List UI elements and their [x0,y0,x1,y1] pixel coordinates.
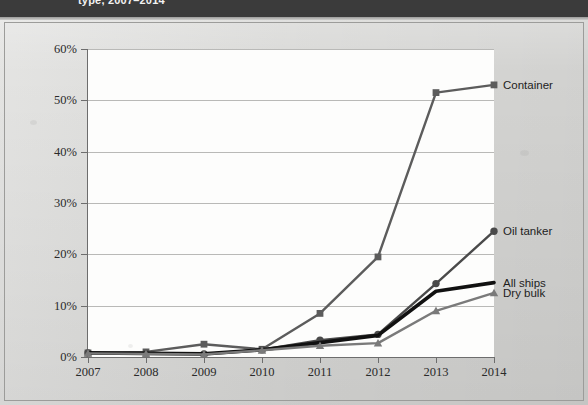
x-axis-tick [378,357,379,363]
y-axis-tick [81,152,88,153]
series-lines [88,49,494,357]
document-header-band: type, 2007–2014 [0,0,588,17]
series-line [88,283,494,354]
x-axis-label: 2013 [424,365,449,380]
plot-area: 0%10%20%30%40%50%60% 2007200820092010201… [87,49,494,358]
x-axis-tick [204,357,205,363]
x-axis-label: 2014 [482,365,507,380]
y-axis-label: 60% [54,42,77,57]
series-label-dry-bulk: Dry bulk [503,287,545,299]
y-axis-label: 30% [54,196,77,211]
series-label-container: Container [503,79,553,91]
data-point-marker [375,254,382,261]
data-point-marker [490,289,498,297]
data-point-marker [317,310,324,317]
y-axis-tick [81,100,88,101]
x-axis-tick [494,357,495,363]
data-point-marker [201,341,208,348]
y-axis-tick [81,357,88,358]
x-axis-label: 2012 [366,365,391,380]
y-axis-label: 0% [60,350,77,365]
x-axis-label: 2010 [250,365,275,380]
y-axis-label: 40% [54,144,77,159]
x-axis-label: 2011 [308,365,333,380]
y-axis-label: 50% [54,93,77,108]
y-axis-tick [81,49,88,50]
x-axis-label: 2007 [76,365,101,380]
data-point-marker [432,280,439,287]
figure-frame: 0%10%20%30%40%50%60% 2007200820092010201… [4,22,584,401]
x-axis-tick [146,357,147,363]
y-axis-tick [81,306,88,307]
x-axis-tick [320,357,321,363]
x-axis-label: 2009 [192,365,217,380]
data-point-marker [491,82,498,89]
y-axis-label: 20% [54,247,77,262]
data-point-marker [433,89,440,96]
header-divider [0,17,588,20]
x-axis-label: 2008 [134,365,159,380]
y-axis-tick [81,203,88,204]
chart-area: 0%10%20%30%40%50%60% 2007200820092010201… [5,23,583,400]
y-axis-tick [81,254,88,255]
x-axis-tick [88,357,89,363]
data-point-marker [490,228,497,235]
chart-title: type, 2007–2014 [78,0,165,6]
x-axis-tick [262,357,263,363]
x-axis-tick [436,357,437,363]
y-axis-label: 10% [54,298,77,313]
series-label-oil-tanker: Oil tanker [503,225,552,237]
